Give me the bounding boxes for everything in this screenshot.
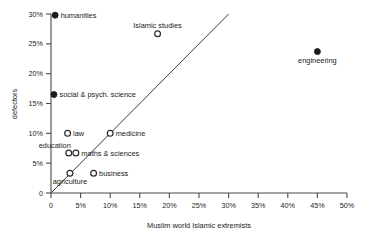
data-point-agriculture — [67, 170, 73, 176]
y-tick-label: 30% — [29, 10, 44, 19]
x-tick-label: 25% — [192, 201, 207, 210]
data-point-business — [91, 170, 97, 176]
scatter-chart: 05%10%15%20%25%30% 05%10%15%20%25%30%35%… — [0, 0, 369, 237]
x-tick-label: 20% — [162, 201, 177, 210]
y-tick-label: 5% — [33, 159, 44, 168]
data-point-humanities — [52, 12, 58, 18]
y-tick-label: 15% — [29, 99, 44, 108]
x-tick-label: 35% — [251, 201, 266, 210]
diagonal-reference-line — [51, 14, 229, 193]
chart-canvas: 05%10%15%20%25%30% 05%10%15%20%25%30%35%… — [0, 0, 369, 237]
x-tick-label: 15% — [133, 201, 148, 210]
x-tick-label: 50% — [340, 201, 355, 210]
point-label-engineering: engineering — [298, 56, 337, 65]
data-point-medicine — [107, 130, 113, 136]
reference-line — [51, 14, 229, 193]
x-axis: 05%10%15%20%25%30%35%40%45%50% — [49, 193, 355, 210]
point-label-social-psych-science: social & psych. science — [59, 90, 135, 99]
x-axis-title: Muslim world Islamic extremists — [147, 221, 251, 230]
y-tick-label: 0 — [39, 189, 43, 198]
y-axis: 05%10%15%20%25%30% — [29, 10, 51, 198]
point-label-education: education — [39, 141, 71, 150]
point-label-humanities: humanities — [61, 11, 97, 20]
x-tick-label: 40% — [281, 201, 296, 210]
data-point-education — [66, 150, 72, 156]
point-label-islamic-studies: Islamic studies — [133, 21, 182, 30]
point-label-law: law — [73, 129, 85, 138]
y-tick-label: 10% — [29, 129, 44, 138]
point-label-maths-sciences: maths & sciences — [81, 149, 139, 158]
data-point-islamic-studies — [155, 31, 161, 37]
data-point-social-psych-science — [51, 92, 57, 98]
data-point-maths-sciences — [73, 150, 79, 156]
x-tick-label: 0 — [49, 201, 53, 210]
data-point-law — [65, 130, 71, 136]
point-label-business: business — [99, 169, 128, 178]
y-tick-label: 25% — [29, 39, 44, 48]
x-tick-label: 30% — [221, 201, 236, 210]
data-point-engineering — [314, 49, 320, 55]
y-tick-label: 20% — [29, 69, 44, 78]
x-tick-label: 45% — [310, 201, 325, 210]
x-tick-label: 5% — [75, 201, 86, 210]
x-tick-label: 10% — [103, 201, 118, 210]
point-label-agriculture: agriculture — [53, 177, 88, 186]
y-axis-title: defectors — [10, 88, 19, 119]
point-label-medicine: medicine — [116, 129, 146, 138]
